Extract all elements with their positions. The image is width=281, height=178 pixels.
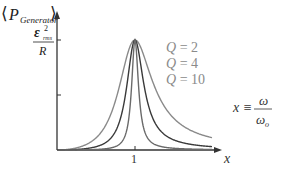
y-axis-label: ⟨ P Generator ⟩ xyxy=(1,4,58,25)
omega-numerator: ω xyxy=(259,93,268,108)
legend-q2-text: = 2 xyxy=(176,40,198,55)
squared-superscript: 2 xyxy=(44,24,48,33)
resonance-power-diagram: ⟨ P Generator ⟩ ε 2 rms R Q = 2 Q = 4 Q … xyxy=(0,0,281,178)
power-symbol: P xyxy=(8,6,19,23)
x-axis-label: x xyxy=(223,151,231,166)
rms-subscript: rms xyxy=(43,35,53,41)
definition-lhs: x ≡ xyxy=(232,100,252,115)
resistance-symbol: R xyxy=(38,44,47,58)
x-axis-arrow-icon xyxy=(214,147,222,153)
legend-q2: Q = 2 xyxy=(166,40,198,55)
emf-symbol: ε xyxy=(34,25,40,40)
angle-bracket-close: ⟩ xyxy=(50,4,57,23)
legend-q10: Q = 10 xyxy=(166,72,205,87)
omega-subscript: o xyxy=(265,120,269,129)
x-definition: x ≡ ω ω o xyxy=(232,93,272,129)
x-tick-label: 1 xyxy=(131,152,137,166)
angle-bracket-open: ⟨ xyxy=(1,4,8,23)
legend: Q = 2 Q = 4 Q = 10 xyxy=(166,40,205,87)
legend-q4: Q = 4 xyxy=(166,56,198,71)
omega-denominator: ω xyxy=(256,112,265,127)
peak-value-label: ε 2 rms R xyxy=(33,24,54,58)
